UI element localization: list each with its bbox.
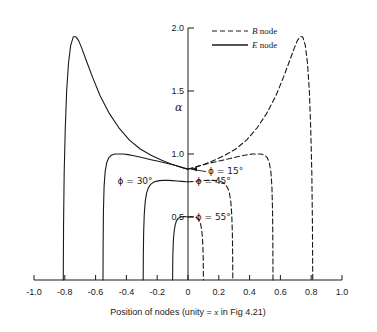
legend-lines (212, 31, 248, 45)
figure-container: -1.0-0.8-0.6-0.4-0.200.20.40.60.81.0 0.5… (0, 0, 377, 332)
legend-entry-e-node: E node (252, 41, 277, 50)
x-italic-var: x (214, 307, 218, 317)
series-line (173, 217, 188, 280)
y-tick-label: 2.0 (160, 24, 184, 33)
chart-plot-area (0, 0, 377, 332)
y-tick-label: 0.5 (160, 213, 184, 222)
x-tick-label: -0.4 (119, 288, 135, 297)
x-tick-label: -0.6 (88, 288, 104, 297)
series-line (188, 217, 203, 280)
legend-entry-b-node: B node (252, 27, 277, 36)
legend-suffix-b: node (258, 26, 278, 36)
legend-suffix-e: node (258, 40, 278, 50)
series-line (143, 180, 188, 280)
y-tick-label: 1.0 (160, 150, 184, 159)
x-tick-label: -0.8 (57, 288, 73, 297)
phi-annotation: ϕ = 30° (117, 177, 152, 186)
x-tick-label: 0.4 (243, 288, 256, 297)
phi-annotation: ϕ = 15° (208, 167, 243, 176)
phi-annotation: ϕ = 45° (196, 177, 231, 186)
x-tick-label: 0.6 (274, 288, 287, 297)
y-axis-label: α (175, 102, 182, 113)
x-tick-label: -1.0 (26, 288, 42, 297)
x-tick-label: 1.0 (336, 288, 349, 297)
x-axis-label: Position of nodes (unity = x in Fig 4.21… (110, 308, 265, 317)
x-tick-label: 0 (185, 288, 190, 297)
x-tick-label: 0.8 (305, 288, 318, 297)
x-tick-label: -0.2 (149, 288, 165, 297)
y-tick-label: 1.5 (160, 87, 184, 96)
phi-annotation: ϕ = 55° (196, 213, 231, 222)
x-tick-label: 0.2 (213, 288, 226, 297)
series-line (188, 180, 233, 280)
series-line (188, 37, 313, 280)
axes (34, 28, 342, 280)
